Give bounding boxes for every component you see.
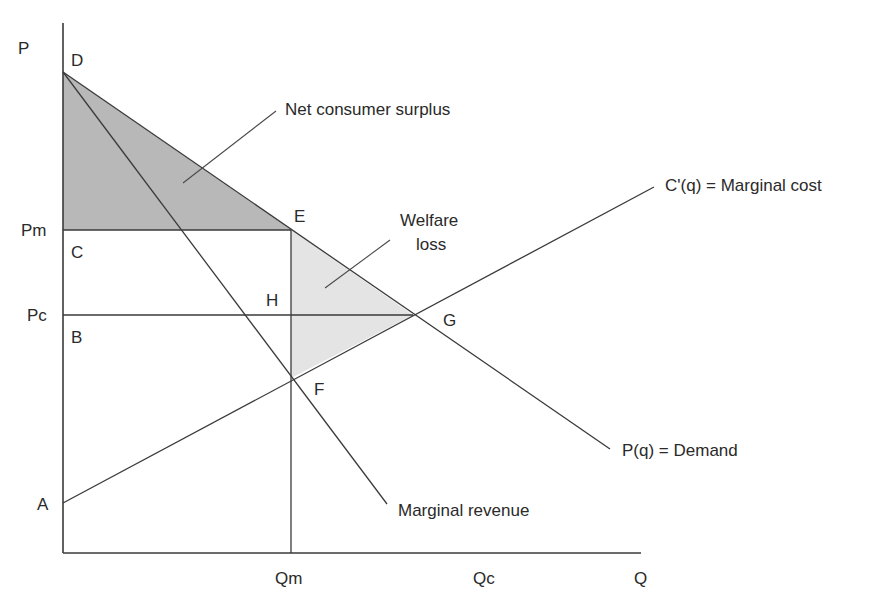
net-consumer-surplus-label: Net consumer surplus bbox=[285, 100, 450, 119]
point-label-c: C bbox=[71, 243, 83, 262]
welfare-loss-label-line2: loss bbox=[416, 235, 446, 254]
demand-label: P(q) = Demand bbox=[622, 441, 738, 460]
welfare-loss-region bbox=[291, 230, 413, 378]
axis-label-q: Q bbox=[634, 569, 647, 588]
welfare-loss-label-line1: Welfare bbox=[400, 211, 458, 230]
demand-curve bbox=[63, 72, 610, 449]
tick-qc: Qc bbox=[473, 569, 495, 588]
consumer-surplus-leader bbox=[183, 111, 276, 183]
monopoly-diagram: P Q Pm Pc Qm Qc D C B A E H G F Net cons… bbox=[0, 0, 879, 606]
point-label-h: H bbox=[266, 291, 278, 310]
tick-pm: Pm bbox=[21, 221, 47, 240]
point-label-b: B bbox=[71, 328, 82, 347]
point-label-a: A bbox=[37, 495, 49, 514]
marginal-revenue-label: Marginal revenue bbox=[398, 501, 529, 520]
point-label-d: D bbox=[71, 51, 83, 70]
axis-label-p: P bbox=[18, 39, 29, 58]
marginal-cost-curve bbox=[63, 187, 654, 503]
marginal-cost-label: C'(q) = Marginal cost bbox=[665, 176, 822, 195]
point-label-f: F bbox=[314, 380, 324, 399]
tick-qm: Qm bbox=[275, 569, 302, 588]
point-label-e: E bbox=[294, 207, 305, 226]
tick-pc: Pc bbox=[27, 306, 47, 325]
point-label-g: G bbox=[443, 311, 456, 330]
